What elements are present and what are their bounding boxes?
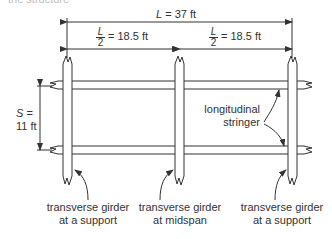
stringer-label-line2: stringer — [192, 116, 260, 129]
girder-label-right: transverse girder at a support — [232, 201, 332, 227]
caption-fragment: the structure — [8, 0, 69, 6]
leader-girder-mid — [160, 170, 173, 200]
leader-stringer-top — [264, 90, 279, 122]
spacing-label: S = — [16, 107, 33, 120]
girder-label-line1: transverse girder — [38, 201, 138, 214]
spacing-value: 11 ft — [16, 120, 37, 133]
leader-girder-right — [275, 170, 286, 200]
fraction-denominator: 2 — [209, 38, 218, 48]
girder-label-line1: transverse girder — [232, 201, 332, 214]
half-span-right-fraction: L 2 — [209, 27, 218, 48]
fraction-denominator: 2 — [96, 38, 105, 48]
leader-girder-left — [75, 170, 88, 200]
girder-label-mid: transverse girder at midspan — [130, 201, 230, 227]
stringer-label-line1: longitudinal — [192, 103, 260, 116]
girder-label-line2: at midspan — [130, 214, 230, 227]
transverse-girder-right — [288, 56, 297, 185]
girder-label-line2: at a support — [232, 214, 332, 227]
transverse-girder-midspan — [175, 56, 184, 185]
leader-stringer-bottom — [264, 124, 284, 146]
spacing-symbol: S — [16, 107, 23, 119]
transverse-girder-left — [63, 56, 72, 185]
girder-label-line1: transverse girder — [130, 201, 230, 214]
total-span-symbol: L — [156, 8, 162, 20]
spacing-eq: = — [26, 107, 32, 119]
half-span-left-fraction: L 2 — [96, 27, 105, 48]
stringer-label: longitudinal stringer — [192, 103, 260, 129]
total-span-value: = 37 ft — [165, 8, 196, 20]
half-span-right-value: = 18.5 ft — [221, 30, 261, 43]
total-span-label: L = 37 ft — [156, 8, 196, 21]
half-span-left-value: = 18.5 ft — [108, 30, 148, 43]
girder-label-line2: at a support — [38, 214, 138, 227]
girder-label-left: transverse girder at a support — [38, 201, 138, 227]
